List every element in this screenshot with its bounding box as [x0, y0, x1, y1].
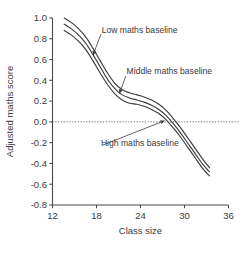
y-tick-label: 0.8 [34, 33, 47, 44]
maths-score-line-chart: 1.00.80.60.40.20.0-0.2-0.4-0.6-0.8121824… [0, 0, 245, 255]
y-tick-label: 0.4 [34, 75, 47, 86]
chart-container: 1.00.80.60.40.20.0-0.2-0.4-0.6-0.8121824… [0, 0, 245, 255]
x-tick-label: 36 [223, 210, 234, 221]
y-tick-label: 0.6 [34, 54, 47, 65]
series-line-middle-maths-baseline [64, 24, 209, 172]
x-tick-label: 18 [91, 210, 102, 221]
x-tick-label: 30 [179, 210, 190, 221]
y-tick-label: -0.6 [31, 179, 47, 190]
y-tick-label: -0.8 [31, 199, 47, 210]
annotation-label-middle-maths-baseline: Middle maths baseline [127, 66, 213, 76]
x-tick-label: 24 [135, 210, 146, 221]
y-tick-label: 0.2 [34, 95, 47, 106]
x-tick-label: 12 [47, 210, 58, 221]
x-axis-title: Class size [119, 225, 162, 236]
annotation-label-low-maths-baseline: Low maths baseline [102, 25, 178, 35]
y-tick-label: 0.0 [34, 116, 47, 127]
series-line-high-maths-baseline [64, 30, 209, 175]
y-tick-label: 1.0 [34, 12, 47, 23]
y-tick-label: -0.4 [31, 158, 47, 169]
y-axis-title: Adjusted maths score [4, 66, 15, 157]
annotation-label-high-maths-baseline: High maths baseline [101, 138, 179, 148]
y-tick-label: -0.2 [31, 137, 47, 148]
